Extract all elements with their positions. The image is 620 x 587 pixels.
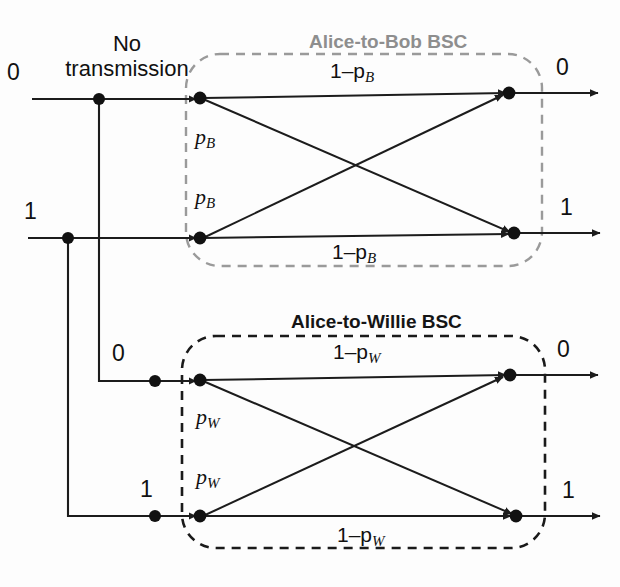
bob-output-0-label: 0 bbox=[556, 56, 569, 79]
bob-prob-1-to-0: pB bbox=[195, 186, 215, 211]
node-willie-pre-0 bbox=[149, 375, 161, 387]
willie-output-lines bbox=[513, 375, 600, 516]
willie-input-0-label: 0 bbox=[112, 342, 125, 365]
node-branch-inner bbox=[93, 93, 105, 105]
willie-prob-1-to-1: 1–pW bbox=[337, 524, 385, 549]
bob-prob-0-to-0-main: 1–p bbox=[330, 59, 365, 82]
willie-prob-1-to-0-sub: W bbox=[207, 475, 220, 491]
willie-prob-0-to-0: 1–pW bbox=[333, 341, 381, 366]
bsc-diagram-svg bbox=[0, 0, 620, 587]
node-willie-out-0 bbox=[504, 369, 517, 382]
node-willie-in-1 bbox=[194, 510, 207, 523]
bob-input-lines bbox=[28, 99, 196, 238]
willie-prob-0-to-0-main: 1–p bbox=[333, 340, 368, 363]
willie-prob-0-to-1-sub: W bbox=[207, 415, 220, 431]
node-bob-out-0 bbox=[503, 87, 516, 100]
node-willie-out-1 bbox=[510, 510, 523, 523]
no-transmission-line-2: transmission bbox=[62, 57, 192, 82]
bob-prob-1-to-0-main: p bbox=[195, 184, 206, 209]
bob-prob-0-to-0: 1–pB bbox=[330, 60, 374, 85]
bob-output-lines bbox=[512, 93, 600, 233]
no-transmission-line-1: No bbox=[62, 32, 192, 57]
bob-prob-1-to-0-sub: B bbox=[206, 195, 215, 211]
bob-prob-1-to-1-main: 1–p bbox=[332, 240, 367, 263]
willie-output-1-label: 1 bbox=[562, 479, 575, 502]
bob-transitions bbox=[203, 93, 510, 238]
bob-input-0-label: 0 bbox=[7, 61, 20, 84]
willie-transitions bbox=[203, 375, 512, 516]
node-bob-in-1 bbox=[194, 232, 207, 245]
bob-prob-1-to-1-sub: B bbox=[367, 250, 376, 266]
bob-output-1-label: 1 bbox=[560, 196, 573, 219]
alice-to-willie-title: Alice-to-Willie BSC bbox=[291, 312, 462, 331]
willie-prob-1-to-0-main: p bbox=[196, 464, 207, 489]
no-transmission-label: No transmission bbox=[62, 32, 192, 81]
willie-prob-1-to-1-main: 1–p bbox=[337, 523, 372, 546]
willie-prob-1-to-0: pW bbox=[196, 466, 220, 491]
bob-input-1-label: 1 bbox=[24, 200, 37, 223]
willie-prob-0-to-1: pW bbox=[196, 406, 220, 431]
node-branch-outer bbox=[62, 232, 74, 244]
willie-prob-0-to-1-main: p bbox=[196, 404, 207, 429]
willie-prob-0-to-0-sub: W bbox=[368, 350, 381, 366]
node-willie-pre-1 bbox=[149, 510, 161, 522]
node-willie-in-0 bbox=[194, 374, 207, 387]
willie-input-1-label: 1 bbox=[140, 478, 153, 501]
no-transmission-branch bbox=[68, 99, 196, 516]
diagram-canvas: No transmission Alice-to-Bob BSC Alice-t… bbox=[0, 0, 620, 587]
willie-prob-1-to-1-sub: W bbox=[372, 533, 385, 549]
bob-prob-0-to-1-sub: B bbox=[206, 135, 215, 151]
bob-prob-0-to-0-sub: B bbox=[365, 69, 374, 85]
node-bob-in-0 bbox=[194, 92, 207, 105]
bob-prob-0-to-1: pB bbox=[195, 126, 215, 151]
bob-prob-1-to-1: 1–pB bbox=[332, 241, 376, 266]
willie-output-0-label: 0 bbox=[557, 338, 570, 361]
bob-prob-0-to-1-main: p bbox=[195, 124, 206, 149]
node-bob-out-1 bbox=[508, 227, 521, 240]
diagram-nodes bbox=[62, 87, 522, 523]
alice-to-bob-title: Alice-to-Bob BSC bbox=[309, 32, 467, 51]
